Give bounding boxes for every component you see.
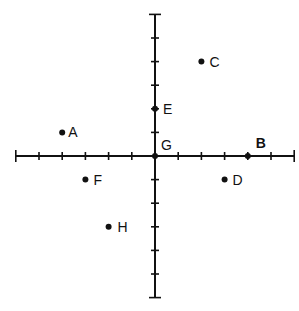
- point-d: D: [222, 172, 243, 188]
- point-dot-icon: [198, 59, 204, 65]
- point-dot-icon: [106, 224, 112, 230]
- point-dot-icon: [245, 153, 251, 159]
- point-c: C: [198, 54, 219, 70]
- point-label: F: [93, 172, 102, 188]
- point-dot-icon: [222, 177, 228, 183]
- point-label: C: [209, 54, 219, 70]
- point-h: H: [106, 219, 128, 235]
- point-label: B: [256, 135, 266, 151]
- point-a: A: [59, 124, 78, 140]
- coordinate-plane: ABCDEFGH: [0, 0, 299, 311]
- point-label: E: [163, 101, 172, 117]
- point-label: G: [161, 137, 172, 153]
- point-dot-icon: [82, 177, 88, 183]
- point-dot-icon: [59, 129, 65, 135]
- point-label: A: [68, 124, 78, 140]
- point-dot-icon: [152, 153, 158, 159]
- point-dot-icon: [152, 106, 158, 112]
- point-f: F: [82, 172, 102, 188]
- points: ABCDEFGH: [59, 54, 266, 235]
- point-label: D: [233, 172, 243, 188]
- point-label: H: [118, 219, 128, 235]
